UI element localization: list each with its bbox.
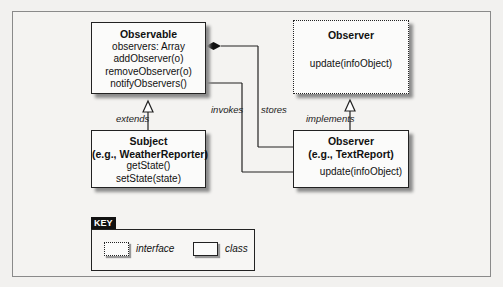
get-state-method: getState()	[92, 160, 205, 173]
observable-class-box: Observable observers: Array addObserver(…	[91, 22, 206, 94]
observable-title: Observable	[92, 28, 205, 41]
observer-concrete-subtitle: (e.g., TextReport)	[294, 148, 408, 161]
interface-key-text: interface	[136, 243, 174, 254]
interface-swatch-icon	[104, 242, 129, 256]
observer-concrete-title: Observer	[294, 135, 408, 148]
subject-class-box: Subject (e.g., WeatherReporter) getState…	[91, 130, 206, 188]
class-swatch-icon	[193, 242, 218, 256]
observer-interface-box: Observer update(infoObject)	[293, 20, 409, 94]
observers-field: observers: Array	[92, 41, 205, 54]
extends-label: extends	[116, 113, 149, 124]
stores-label: stores	[261, 104, 287, 115]
add-observer-method: addObserver(o)	[92, 53, 205, 66]
notify-observers-method: notifyObservers()	[92, 78, 205, 91]
interface-update-method: update(infoObject)	[294, 58, 408, 71]
key-legend: interface class	[91, 229, 255, 271]
composition-diamond-icon	[206, 42, 221, 50]
observer-concrete-box: Observer (e.g., TextReport) update(infoO…	[293, 130, 409, 188]
subject-title: Subject	[92, 135, 205, 148]
implements-label: implements	[306, 113, 355, 124]
class-key-text: class	[225, 243, 248, 254]
set-state-method: setState(state)	[92, 173, 205, 186]
remove-observer-method: removeObserver(o)	[92, 66, 205, 79]
generalization-arrow-icon	[143, 101, 153, 112]
concrete-update-method: update(infoObject)	[294, 166, 408, 179]
realization-arrow-icon	[345, 100, 355, 111]
invokes-label: invokes	[211, 104, 243, 115]
subject-subtitle: (e.g., WeatherReporter)	[92, 148, 205, 161]
observer-interface-title: Observer	[294, 29, 408, 42]
